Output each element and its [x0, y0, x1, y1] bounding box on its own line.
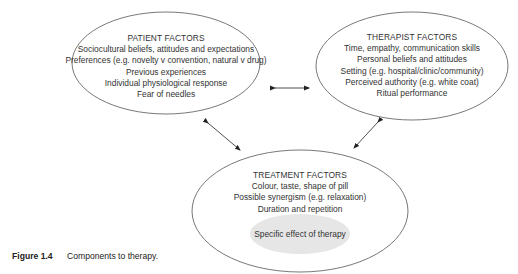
therapist-factors-text: THERAPIST FACTORS Time, empathy, communi… [330, 32, 494, 99]
patient-factor-line: Sociocultural beliefs, attitudes and exp… [71, 44, 261, 55]
patient-factor-line: Preferences (e.g. novelty v convention, … [65, 55, 267, 66]
treatment-factor-line: Colour, taste, shape of pill [220, 181, 380, 192]
arrow-patient-treatment [208, 123, 240, 150]
therapist-factors-title: THERAPIST FACTORS [330, 32, 494, 43]
therapist-factor-line: Setting (e.g. hospital/clinic/community) [330, 66, 494, 77]
treatment-factor-line: Possible synergism (e.g. relaxation) [220, 192, 380, 203]
treatment-factors-title: TREATMENT FACTORS [220, 170, 380, 181]
patient-factor-line: Fear of needles [71, 89, 261, 100]
therapist-factor-line: Personal beliefs and attitudes [330, 54, 494, 65]
therapist-factor-line: Perceived authority (e.g. white coat) [330, 77, 494, 88]
therapist-factor-line: Ritual performance [330, 88, 494, 99]
patient-factors-title: PATIENT FACTORS [71, 33, 261, 44]
treatment-factor-line: Duration and repetition [220, 204, 380, 215]
figure-label: Figure 1.4 [12, 251, 53, 261]
therapist-factor-line: Time, empathy, communication skills [330, 43, 494, 54]
specific-effect-label: Specific effect of therapy [250, 229, 350, 239]
treatment-factors-text: TREATMENT FACTORS Colour, taste, shape o… [220, 170, 380, 215]
figure-caption: Figure 1.4 Components to therapy. [12, 251, 158, 261]
patient-factors-text: PATIENT FACTORS Sociocultural beliefs, a… [71, 33, 261, 100]
patient-factor-line: Previous experiences [71, 67, 261, 78]
patient-factor-line: Individual physiological response [71, 78, 261, 89]
figure-caption-text: Components to therapy. [67, 251, 158, 261]
arrow-therapist-treatment [354, 122, 378, 148]
